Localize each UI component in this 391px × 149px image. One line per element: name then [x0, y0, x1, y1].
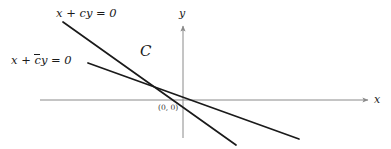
y-axis-label: y — [179, 8, 185, 19]
origin-label: (0, 0) — [158, 104, 178, 112]
line-c — [63, 22, 236, 145]
line-cbar-label-prefix: x + — [11, 53, 34, 67]
line-c-label: x + cy = 0 — [56, 8, 117, 20]
line-cbar — [88, 63, 299, 139]
line-cbar-label: x + cy = 0 — [11, 55, 72, 67]
line-c-label-prefix: x + — [56, 6, 79, 20]
x-axis-label: x — [374, 94, 380, 105]
line-cbar-label-symbol: c — [34, 55, 40, 67]
line-cbar-label-suffix: y = 0 — [41, 53, 72, 67]
line-c-label-suffix: y = 0 — [86, 6, 117, 20]
diagram-canvas — [0, 0, 391, 149]
curve-label-c: C — [140, 44, 151, 59]
math-diagram: x + cy = 0 x + cy = 0 C x y (0, 0) — [0, 0, 391, 149]
